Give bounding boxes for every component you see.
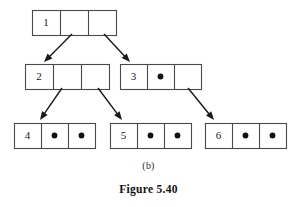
edge-3-6-line xyxy=(188,88,210,115)
node-key-label-2: 2 xyxy=(36,70,42,82)
figure-subcaption: (b) xyxy=(0,160,297,171)
edge-2-4-line xyxy=(44,88,62,115)
record-node-1: 1 xyxy=(33,10,117,36)
link-pointer-cell-3-2 xyxy=(174,64,201,89)
edge-1-2-line xyxy=(49,34,72,57)
nodes-layer: 123456 xyxy=(15,10,287,149)
edge-1-3-line xyxy=(104,34,126,57)
record-node-6: 6 xyxy=(206,124,287,149)
figure-container: 123456 (b) Figure 5.40 xyxy=(0,0,297,207)
node-key-label-4: 4 xyxy=(25,129,31,141)
link-pointer-cell-2-1 xyxy=(53,64,81,89)
figure-caption: Figure 5.40 xyxy=(0,183,297,195)
record-node-5: 5 xyxy=(111,124,192,149)
edge-2-4-head xyxy=(40,111,48,120)
null-pointer-dot-6-2 xyxy=(270,133,276,139)
edge-2-5-line xyxy=(98,88,118,115)
edge-2-4 xyxy=(40,88,62,120)
record-node-2: 2 xyxy=(26,64,110,90)
edge-1-2 xyxy=(44,34,72,62)
null-pointer-dot-4-1 xyxy=(52,133,58,139)
node-key-label-6: 6 xyxy=(216,129,222,141)
edge-2-5-head xyxy=(114,111,122,120)
null-pointer-dot-4-2 xyxy=(79,133,85,139)
null-pointer-dot-5-1 xyxy=(148,133,154,139)
edge-3-6 xyxy=(188,88,214,120)
link-pointer-cell-1-1 xyxy=(60,10,88,35)
tree-diagram-svg: 123456 xyxy=(0,0,297,207)
edge-1-3 xyxy=(104,34,130,62)
record-node-3: 3 xyxy=(121,64,202,90)
node-key-label-5: 5 xyxy=(121,129,127,141)
null-pointer-dot-6-1 xyxy=(243,133,249,139)
link-pointer-cell-1-2 xyxy=(88,10,116,35)
null-pointer-dot-3-1 xyxy=(158,74,164,80)
record-node-4: 4 xyxy=(15,124,96,149)
null-pointer-dot-5-2 xyxy=(175,133,181,139)
edge-2-5 xyxy=(98,88,122,120)
link-pointer-cell-2-2 xyxy=(81,64,109,89)
node-key-label-3: 3 xyxy=(131,70,137,82)
node-key-label-1: 1 xyxy=(43,16,49,28)
